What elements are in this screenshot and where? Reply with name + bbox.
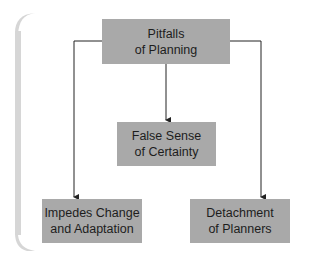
detachment-line1: Detachment xyxy=(206,205,273,221)
detachment-line2: of Planners xyxy=(208,221,271,237)
false-sense-line2: of Certainty xyxy=(135,144,199,160)
impedes-line2: and Adaptation xyxy=(50,221,133,237)
root-box-pitfalls-of-planning: Pitfalls of Planning xyxy=(102,19,230,64)
box-false-sense-of-certainty: False Sense of Certainty xyxy=(117,122,216,166)
false-sense-line1: False Sense xyxy=(132,128,201,144)
arrow-to-impedes-change xyxy=(74,41,102,197)
root-line2: of Planning xyxy=(135,42,198,58)
root-line1: Pitfalls xyxy=(148,26,185,42)
arrow-to-detachment xyxy=(230,41,261,197)
box-impedes-change: Impedes Change and Adaptation xyxy=(42,199,142,243)
impedes-line1: Impedes Change xyxy=(44,205,139,221)
box-detachment-of-planners: Detachment of Planners xyxy=(190,199,290,243)
